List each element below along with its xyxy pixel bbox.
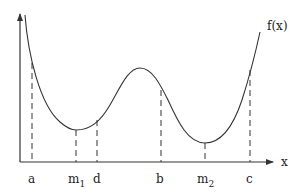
marker-label-b: b: [156, 172, 164, 186]
function-label: f(x): [267, 19, 288, 33]
function-plot: f(x) x a m1 d b m2 c: [0, 0, 304, 195]
x-axis-label: x: [281, 155, 288, 169]
marker-label-m1-base: m: [68, 172, 80, 186]
marker-label-m2-base: m: [197, 172, 209, 186]
marker-label-m2: m2: [197, 172, 214, 189]
marker-label-m2-sub: 2: [208, 179, 214, 189]
marker-label-c: c: [246, 172, 253, 186]
function-curve: [25, 15, 260, 143]
marker-label-d: d: [93, 172, 101, 186]
marker-label-a: a: [28, 172, 35, 186]
marker-label-m1-sub: 1: [79, 179, 85, 189]
marker-label-m1: m1: [68, 172, 85, 189]
